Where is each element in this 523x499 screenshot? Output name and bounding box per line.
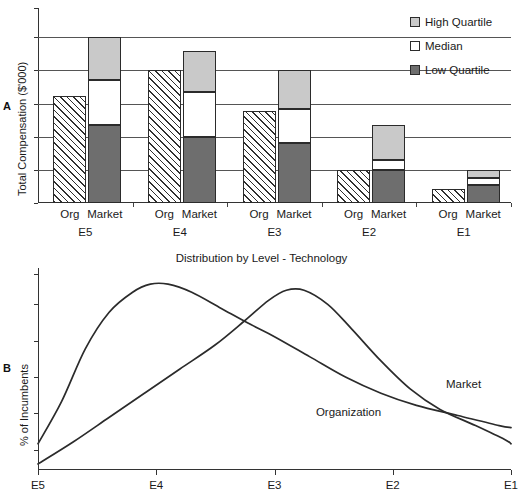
bar-market-E3 xyxy=(278,70,311,203)
panel-b-y-axis xyxy=(38,268,39,470)
legend-item-med: Median xyxy=(410,40,463,52)
label-market-E4: Market xyxy=(175,208,224,220)
label-level-E2: E2 xyxy=(322,226,417,238)
panel-b-y-tick-5 xyxy=(34,274,38,275)
panel-b-line-chart: B Distribution by Level - Technology % o… xyxy=(0,250,523,499)
x-tick-4 xyxy=(511,203,512,207)
x-tick-0 xyxy=(133,203,134,207)
segment-low-quartile-E2 xyxy=(372,170,405,203)
segment-high-quartile-E1 xyxy=(467,170,500,178)
panel-b-y-tick-2 xyxy=(34,377,38,378)
panel-b-y-tick-3 xyxy=(34,341,38,342)
y-tick-0 xyxy=(34,203,38,204)
panel-b-x-tick-E1 xyxy=(511,470,512,475)
label-level-E1: E1 xyxy=(416,226,511,238)
panel-b-y-tick-4 xyxy=(34,304,38,305)
bar-market-E4 xyxy=(183,51,216,203)
bar-market-E2 xyxy=(372,125,405,203)
legend-label-high: High Quartile xyxy=(425,16,492,28)
legend-label-low: Low Quartile xyxy=(425,64,490,76)
label-market-E5: Market xyxy=(80,208,129,220)
segment-high-quartile-E2 xyxy=(372,125,405,160)
segment-median-E5 xyxy=(88,80,121,125)
segment-median-E3 xyxy=(278,109,311,142)
segment-low-quartile-E4 xyxy=(183,137,216,203)
panel-b-x-tick-E2 xyxy=(393,470,394,475)
bar-org-E1 xyxy=(432,189,465,203)
segment-low-quartile-E1 xyxy=(467,185,500,203)
bar-market-E1 xyxy=(467,170,500,203)
legend-label-med: Median xyxy=(425,40,463,52)
x-tick-1 xyxy=(227,203,228,207)
curve-organization xyxy=(38,289,511,464)
panel-b-x-tick-E5 xyxy=(38,470,39,475)
bar-org-E3 xyxy=(243,111,276,203)
label-level-E5: E5 xyxy=(38,226,133,238)
segment-low-quartile-E5 xyxy=(88,125,121,203)
curve-label-market: Market xyxy=(446,378,481,390)
segment-high-quartile-E5 xyxy=(88,37,121,80)
bar-org-E2 xyxy=(337,170,370,203)
legend-swatch-high-icon xyxy=(410,17,420,27)
legend-item-low: Low Quartile xyxy=(410,64,490,76)
panel-b-y-tick-0 xyxy=(34,450,38,451)
segment-high-quartile-E3 xyxy=(278,70,311,109)
segment-low-quartile-E3 xyxy=(278,143,311,203)
panel-b-plot-area: MarketOrganization xyxy=(38,268,511,470)
y-tick-1 xyxy=(34,170,38,171)
bar-org-E4 xyxy=(148,70,181,203)
y-tick-6 xyxy=(34,8,38,9)
segment-median-E1 xyxy=(467,178,500,186)
panel-a-y-axis-title: Total Compensation ($'000) xyxy=(16,62,28,196)
panel-b-y-tick-1 xyxy=(34,413,38,414)
bar-org-E5 xyxy=(53,96,86,203)
panel-b-letter: B xyxy=(3,362,11,374)
panel-a-bar-chart: A Total Compensation ($'000) High Quarti… xyxy=(0,0,523,250)
panel-b-x-tick-E4 xyxy=(156,470,157,475)
label-level-E3: E3 xyxy=(227,226,322,238)
panel-a-letter: A xyxy=(3,100,11,112)
segment-median-E4 xyxy=(183,92,216,137)
bar-market-E5 xyxy=(88,37,121,203)
segment-median-E2 xyxy=(372,160,405,170)
label-market-E3: Market xyxy=(270,208,319,220)
x-tick-2 xyxy=(322,203,323,207)
panel-b-title: Distribution by Level - Technology xyxy=(0,252,523,264)
panel-b-x-label-E5: E5 xyxy=(13,479,63,491)
legend-item-high: High Quartile xyxy=(410,16,492,28)
segment-high-quartile-E4 xyxy=(183,51,216,92)
y-tick-3 xyxy=(34,104,38,105)
panel-b-x-label-E2: E2 xyxy=(368,479,418,491)
curve-label-organization: Organization xyxy=(316,406,381,418)
panel-a-plot-area xyxy=(38,8,511,203)
legend-swatch-low-icon xyxy=(410,65,420,75)
panel-b-x-tick-E3 xyxy=(275,470,276,475)
panel-b-x-label-E3: E3 xyxy=(250,479,300,491)
panel-b-curves xyxy=(38,268,511,470)
panel-b-y-axis-title: % of Incumbents xyxy=(18,364,30,446)
x-tick-3 xyxy=(416,203,417,207)
label-market-E2: Market xyxy=(364,208,413,220)
y-tick-5 xyxy=(34,37,38,38)
y-tick-4 xyxy=(34,70,38,71)
label-market-E1: Market xyxy=(459,208,508,220)
y-tick-2 xyxy=(34,137,38,138)
legend-swatch-med-icon xyxy=(410,41,420,51)
panel-b-x-label-E4: E4 xyxy=(131,479,181,491)
curve-market xyxy=(38,283,511,444)
label-level-E4: E4 xyxy=(133,226,228,238)
panel-b-x-label-E1: E1 xyxy=(486,479,523,491)
